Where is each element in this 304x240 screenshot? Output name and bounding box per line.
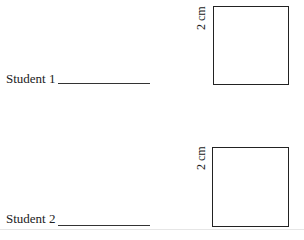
student-1-label: Student 1 [6, 72, 55, 86]
student-1-answer-line[interactable] [58, 83, 150, 84]
square-2 [212, 147, 289, 227]
student-2-label: Student 2 [6, 212, 55, 226]
page-bottom-rule [0, 229, 304, 230]
student-2-answer-line[interactable] [58, 225, 150, 226]
square-2-side-label: 2 cm [195, 146, 207, 170]
square-1-side-label: 2 cm [195, 6, 207, 30]
square-1 [213, 6, 289, 85]
